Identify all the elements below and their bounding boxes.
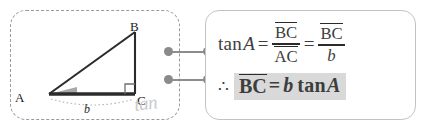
side-length-label-b: b xyxy=(84,103,90,115)
dimension-arc-b xyxy=(51,99,134,105)
connector-line-bottom xyxy=(168,79,208,81)
coefficient-b: b xyxy=(282,74,294,97)
angle-a-symbol: A xyxy=(242,33,256,55)
fraction-denominator-ac: AC xyxy=(272,45,299,66)
angle-a-symbol-result: A xyxy=(326,74,341,97)
tan-function-label-result: tan xyxy=(294,74,326,97)
overline-segment-bc: BC xyxy=(275,22,297,42)
equals-sign-1: = xyxy=(256,33,271,55)
equals-sign-2: = xyxy=(302,33,317,55)
vertex-label-c: C xyxy=(137,94,146,107)
equals-sign-result: = xyxy=(267,74,282,97)
fraction-numerator-bc: BC xyxy=(273,22,299,43)
overline-segment-bc-result: BC xyxy=(239,74,267,98)
fraction-bc-over-ac: BC AC xyxy=(270,22,301,66)
connector-line-top xyxy=(168,51,208,53)
fraction-numerator-bc-2: BC xyxy=(318,23,344,44)
fraction-denominator-b: b xyxy=(325,46,337,65)
overline-segment-ac: AC xyxy=(274,46,297,66)
diagram-stage: A B C b tan tan A = BC xyxy=(0,0,428,130)
formula-panel: tan A = BC AC = BC b ∴ xyxy=(205,10,416,120)
therefore-symbol: ∴ xyxy=(218,76,234,97)
formula-line-tangent-ratio: tan A = BC AC = BC b xyxy=(218,22,347,66)
triangle-figure-panel: A B C b tan xyxy=(10,10,180,120)
vertex-label-a: A xyxy=(15,91,24,104)
segment-ab xyxy=(49,32,135,94)
fraction-bc-over-b: BC b xyxy=(316,23,346,64)
formula-line-result: ∴ BC = b tan A xyxy=(218,73,346,100)
tan-function-label: tan xyxy=(218,33,242,55)
connector-dot-bottom-left[interactable] xyxy=(164,75,173,84)
overline-segment-bc-2: BC xyxy=(320,23,342,43)
vertex-label-b: B xyxy=(130,20,139,33)
result-highlight-box: BC = b tan A xyxy=(234,73,346,100)
connector-dot-top-left[interactable] xyxy=(164,47,173,56)
triangle-drawing xyxy=(11,11,181,121)
